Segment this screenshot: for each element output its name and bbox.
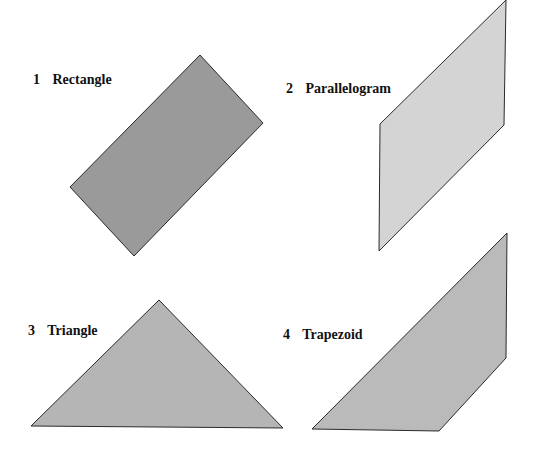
triangle-label: 3 Triangle: [28, 324, 98, 338]
triangle-number: 3: [28, 324, 44, 338]
triangle-shape: [31, 300, 283, 428]
parallelogram-number: 2: [286, 82, 302, 96]
parallelogram-name: Parallelogram: [306, 81, 392, 96]
rectangle-label: 1 Rectangle: [33, 73, 112, 87]
trapezoid-label: 4 Trapezoid: [283, 328, 363, 342]
triangle-name: Triangle: [47, 323, 97, 338]
trapezoid-name: Trapezoid: [302, 327, 362, 342]
shapes-canvas: [0, 0, 539, 461]
parallelogram-label: 2 Parallelogram: [286, 82, 391, 96]
trapezoid-number: 4: [283, 328, 299, 342]
rectangle-name: Rectangle: [53, 72, 112, 87]
parallelogram-shape: [379, 0, 506, 251]
rectangle-number: 1: [33, 73, 49, 87]
